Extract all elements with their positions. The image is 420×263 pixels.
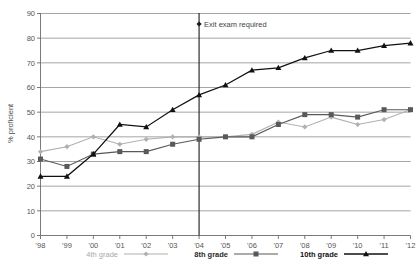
xtick-label-5: '03: [168, 241, 178, 250]
marker-square: [329, 112, 334, 117]
marker-triangle: [223, 82, 229, 87]
xtick-label-8: '06: [247, 241, 257, 250]
marker-diamond: [38, 149, 43, 154]
series-4th-grade: [38, 107, 413, 154]
xtick-label-13: '11: [379, 241, 388, 250]
marker-square: [302, 112, 307, 117]
series-10th-grade: [38, 40, 414, 179]
xtick-label-6: '04: [194, 241, 204, 250]
ytick-label-90: 90: [27, 9, 35, 18]
chart-container: 0102030405060708090% proficient'98'99'00…: [0, 0, 420, 263]
marker-diamond: [64, 144, 69, 149]
marker-square: [408, 107, 413, 112]
xtick-label-0: '98: [36, 241, 46, 250]
marker-square: [276, 122, 281, 127]
x-axis-group: '98'99'00'01'02'03'04'05'06'07'08'09'10'…: [36, 236, 416, 250]
marker-square: [170, 142, 175, 147]
marker-diamond: [143, 251, 148, 256]
ytick-label-70: 70: [27, 59, 35, 68]
marker-square: [117, 149, 122, 154]
xtick-label-12: '10: [353, 241, 363, 250]
annotation-diamond-icon: [196, 21, 201, 26]
legend-label-8th-grade[interactable]: 8th grade: [194, 250, 228, 259]
marker-square: [249, 134, 254, 139]
xtick-label-2: '00: [88, 241, 98, 250]
marker-square: [197, 137, 202, 142]
ytick-label-80: 80: [27, 34, 35, 43]
annotation-label-exit-exam: Exit exam required: [204, 20, 267, 29]
marker-square: [223, 134, 228, 139]
marker-diamond: [170, 134, 175, 139]
xtick-label-10: '08: [300, 241, 310, 250]
marker-diamond: [91, 134, 96, 139]
legend: 4th grade8th grade10th grade: [86, 250, 388, 259]
ytick-label-40: 40: [27, 133, 35, 142]
xtick-label-14: '12: [406, 241, 416, 250]
xtick-label-3: '01: [115, 241, 125, 250]
marker-square: [382, 107, 387, 112]
marker-square: [38, 157, 43, 162]
ytick-label-60: 60: [27, 83, 35, 92]
ytick-label-20: 20: [27, 182, 35, 191]
y-axis-title: % proficient: [6, 103, 15, 143]
marker-diamond: [355, 122, 360, 127]
xtick-label-1: '99: [62, 241, 72, 250]
ytick-label-10: 10: [27, 207, 35, 216]
marker-square: [254, 252, 259, 257]
marker-diamond: [302, 124, 307, 129]
legend-label-10th-grade[interactable]: 10th grade: [300, 250, 338, 259]
xtick-label-7: '05: [221, 241, 231, 250]
marker-square: [355, 115, 360, 120]
xtick-label-9: '07: [273, 241, 283, 250]
marker-diamond: [117, 142, 122, 147]
marker-triangle: [170, 107, 176, 112]
marker-square: [144, 149, 149, 154]
ytick-label-30: 30: [27, 157, 35, 166]
marker-diamond: [144, 137, 149, 142]
ytick-label-0: 0: [31, 231, 35, 240]
xtick-label-4: '02: [141, 241, 151, 250]
ytick-label-50: 50: [27, 108, 35, 117]
series-line-0: [41, 110, 411, 152]
marker-diamond: [381, 117, 386, 122]
proficiency-line-chart: 0102030405060708090% proficient'98'99'00…: [0, 0, 420, 263]
legend-label-4th-grade[interactable]: 4th grade: [86, 250, 118, 259]
xtick-label-11: '09: [326, 241, 336, 250]
marker-square: [64, 164, 69, 169]
gridlines-group: 0102030405060708090: [27, 9, 411, 240]
annotation-0: Exit exam required: [196, 13, 266, 236]
